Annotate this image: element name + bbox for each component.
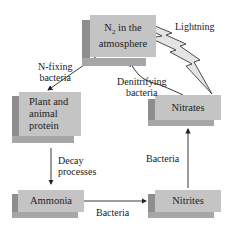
label-denitrifying-bacteria: Denitrifying bacteria: [117, 76, 166, 98]
label-lightning: Lightning: [175, 21, 214, 32]
label-bacteria-ammonia-nitrites: Bacteria: [96, 207, 129, 218]
label-bacteria-nitrites-nitrates: Bacteria: [146, 153, 179, 164]
label-n-fixing-bacteria: N-fixing bacteria: [38, 61, 72, 83]
label-decay-processes: Decay processes: [58, 155, 96, 177]
